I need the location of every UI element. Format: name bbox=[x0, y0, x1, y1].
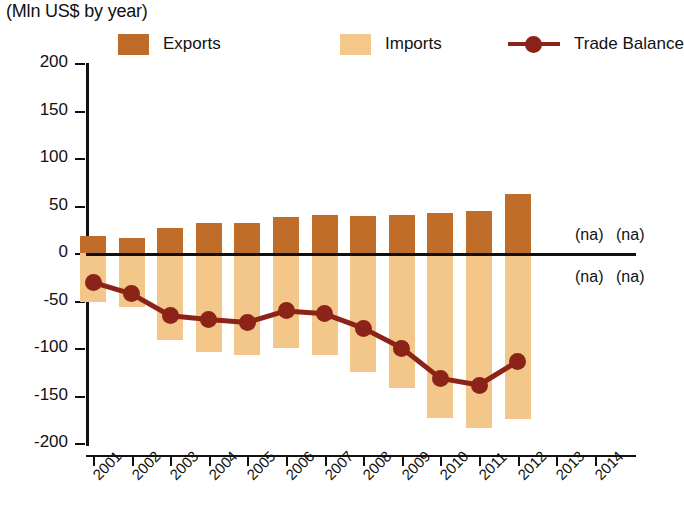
na-label-bottom-2013: (na) bbox=[575, 268, 603, 286]
exports-bar bbox=[80, 236, 106, 253]
x-axis-tick-label: 2001 bbox=[89, 447, 125, 483]
x-axis-tick-label: 2005 bbox=[243, 447, 279, 483]
y-axis-tick bbox=[75, 206, 85, 208]
imports-bar bbox=[234, 253, 260, 355]
exports-bar bbox=[466, 211, 492, 253]
imports-bar bbox=[157, 253, 183, 340]
y-axis-tick bbox=[75, 443, 85, 445]
imports-bar bbox=[466, 253, 492, 428]
trade-balance-point bbox=[278, 302, 295, 319]
imports-bar bbox=[312, 253, 338, 355]
imports-bar bbox=[427, 253, 453, 418]
y-axis-tick-label: -100 bbox=[8, 337, 68, 357]
trade-balance-point bbox=[239, 314, 256, 331]
trade-balance-point bbox=[162, 307, 179, 324]
exports-bar bbox=[350, 216, 376, 253]
exports-bar bbox=[119, 238, 145, 253]
x-axis-tick-label: 2010 bbox=[436, 447, 472, 483]
y-axis-tick-label: -150 bbox=[8, 385, 68, 405]
y-axis-tick-label: 50 bbox=[8, 195, 68, 215]
y-axis-tick bbox=[75, 158, 85, 160]
x-axis-tick-label: 2002 bbox=[128, 447, 164, 483]
trade-balance-point bbox=[355, 320, 372, 337]
y-axis-tick-label: 100 bbox=[8, 147, 68, 167]
trade-balance-point bbox=[85, 274, 102, 291]
y-axis-tick-label: 150 bbox=[8, 100, 68, 120]
na-label-bottom-2014: (na) bbox=[616, 268, 644, 286]
exports-bar bbox=[196, 223, 222, 253]
y-axis-tick-label: 200 bbox=[8, 52, 68, 72]
y-axis-tick-label: -50 bbox=[8, 290, 68, 310]
y-axis-tick-label: -200 bbox=[8, 432, 68, 452]
exports-bar bbox=[389, 215, 415, 253]
exports-bar bbox=[157, 228, 183, 253]
exports-bar bbox=[273, 217, 299, 253]
imports-bar bbox=[389, 253, 415, 388]
x-axis-tick-label: 2006 bbox=[282, 447, 318, 483]
exports-bar bbox=[312, 215, 338, 253]
trade-balance-point bbox=[393, 340, 410, 357]
x-axis-tick-label: 2007 bbox=[321, 447, 357, 483]
x-axis-tick-label: 2004 bbox=[205, 447, 241, 483]
imports-bar bbox=[505, 253, 531, 419]
x-axis-tick-label: 2012 bbox=[514, 447, 550, 483]
x-axis-tick-label: 2003 bbox=[166, 447, 202, 483]
exports-bar bbox=[234, 223, 260, 253]
x-axis-tick-label: 2014 bbox=[591, 447, 627, 483]
exports-bar bbox=[427, 213, 453, 253]
imports-bar bbox=[273, 253, 299, 348]
zero-baseline bbox=[86, 253, 636, 256]
x-axis-line bbox=[86, 455, 636, 457]
na-label-top-2014: (na) bbox=[616, 226, 644, 244]
na-label-top-2013: (na) bbox=[575, 226, 603, 244]
trade-balance-point bbox=[471, 377, 488, 394]
y-axis-tick bbox=[75, 63, 85, 65]
y-axis-tick-label: 0 bbox=[8, 242, 68, 262]
y-axis-tick bbox=[75, 111, 85, 113]
trade-balance-point bbox=[509, 353, 526, 370]
trade-balance-point bbox=[432, 370, 449, 387]
imports-bar bbox=[350, 253, 376, 372]
x-axis-tick-label: 2009 bbox=[398, 447, 434, 483]
x-axis-tick-label: 2013 bbox=[552, 447, 588, 483]
exports-bar bbox=[505, 194, 531, 253]
y-axis-tick bbox=[75, 396, 85, 398]
x-axis-tick-label: 2011 bbox=[475, 448, 510, 483]
y-axis-tick bbox=[75, 348, 85, 350]
imports-bar bbox=[196, 253, 222, 352]
x-axis-tick-label: 2008 bbox=[359, 447, 395, 483]
